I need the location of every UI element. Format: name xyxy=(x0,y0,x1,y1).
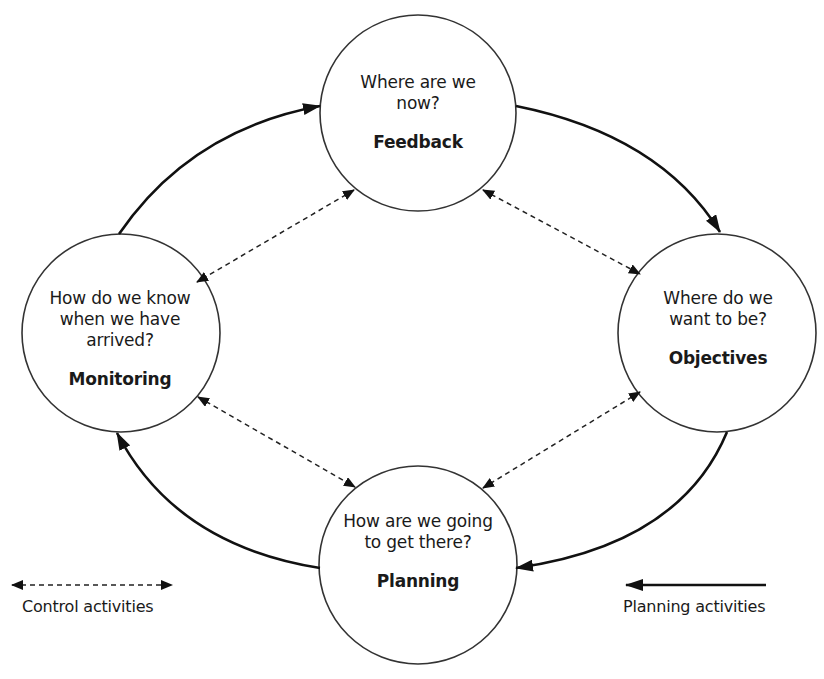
objectives-node: Where do we want to be? Objectives xyxy=(663,288,772,368)
feedback-question-line-2: now? xyxy=(360,93,475,114)
objectives-question-line-1: Where do we xyxy=(663,288,772,309)
arrow-feedback-to-objectives xyxy=(516,106,720,232)
legend-planning-label: Planning activities xyxy=(623,597,765,616)
feedback-node: Where are we now? Feedback xyxy=(360,72,475,152)
control-feedback-monitoring xyxy=(197,190,354,282)
arrow-planning-to-monitoring xyxy=(117,433,320,568)
planning-label: Planning xyxy=(343,571,492,591)
monitoring-node: How do we know when we have arrived? Mon… xyxy=(50,288,191,389)
planning-question-line-1: How are we going xyxy=(343,511,492,532)
objectives-label: Objectives xyxy=(663,348,772,368)
arrow-monitoring-to-feedback xyxy=(119,106,320,234)
monitoring-question-line-1: How do we know xyxy=(50,288,191,309)
planning-node: How are we going to get there? Planning xyxy=(343,511,492,591)
monitoring-label: Monitoring xyxy=(50,369,191,389)
arrow-objectives-to-planning xyxy=(516,432,727,568)
control-monitoring-planning xyxy=(198,397,355,487)
legend-control-label: Control activities xyxy=(22,597,153,616)
objectives-question-line-2: want to be? xyxy=(663,309,772,330)
monitoring-question-line-2: when we have xyxy=(50,309,191,330)
cycle-diagram: Where are we now? Feedback Where do we w… xyxy=(0,0,824,679)
feedback-question-line-1: Where are we xyxy=(360,72,475,93)
control-feedback-objectives xyxy=(483,190,640,274)
feedback-label: Feedback xyxy=(360,132,475,152)
control-objectives-planning xyxy=(483,392,640,488)
monitoring-question-line-3: arrived? xyxy=(50,330,191,351)
planning-question-line-2: to get there? xyxy=(343,532,492,553)
